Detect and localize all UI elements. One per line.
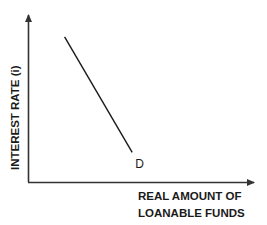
x-axis-label-line-2: LOANABLE FUNDS xyxy=(138,207,245,219)
x-axis-label-line-1: REAL AMOUNT OF xyxy=(138,190,242,202)
demand-chart: D INTEREST RATE (i) REAL AMOUNT OF LOANA… xyxy=(0,0,267,225)
demand-curve-label: D xyxy=(135,157,144,171)
demand-curve xyxy=(65,37,133,153)
y-axis-label: INTEREST RATE (i) xyxy=(9,65,21,170)
